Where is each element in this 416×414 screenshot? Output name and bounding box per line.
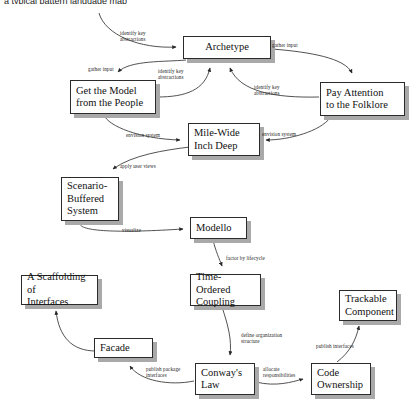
node-pay-attention-to-the-folklore[interactable]: Pay Attention to the Folklore: [320, 82, 405, 116]
node-label: Modello: [196, 222, 232, 235]
edge-gather-input-right: [272, 49, 352, 73]
edge-allocate-responsibilities: [256, 379, 303, 384]
node-label: Time-Ordered Coupling: [196, 271, 255, 309]
edge-label-envision-system-right: envision system: [262, 131, 296, 137]
node-label: Code Ownership: [317, 367, 363, 392]
node-scenario-buffered-system[interactable]: Scenario- Buffered System: [61, 177, 119, 221]
edge-label-gather-input-right: gather input: [272, 42, 298, 48]
edge-label-allocate-responsibilities: allocate responsibilities: [263, 366, 295, 378]
edge-label-factor-by-lifecycle: factor by lifecycle: [226, 255, 265, 261]
node-facade[interactable]: Facade: [94, 338, 153, 358]
edge-label-identify-key-abstractions-top: identify key abstractions: [120, 30, 146, 42]
node-get-the-model-from-the-people[interactable]: Get the Model from the People: [70, 80, 156, 114]
node-label: Archetype: [189, 41, 265, 54]
node-trackable-component[interactable]: Trackable Component: [339, 290, 397, 321]
edge-label-define-organization-structure: define organization structure: [241, 332, 282, 344]
edge-factor-by-lifecycle: [213, 240, 222, 266]
edge-label-gather-input-left: gather input: [88, 66, 114, 72]
edge-label-apply-user-views: apply user views: [120, 163, 156, 169]
node-label: Get the Model from the People: [76, 85, 143, 110]
node-label: Conway's Law: [201, 367, 242, 392]
node-a-scaffolding-of-interfaces[interactable]: A Scaffolding of Interfaces: [21, 275, 98, 305]
edge-facade-to-scaffolding: [56, 311, 96, 351]
node-label: Pay Attention to the Folklore: [326, 87, 388, 112]
edge-label-publish-package-interfaces: publish package interfaces: [146, 366, 180, 378]
node-time-ordered-coupling[interactable]: Time-Ordered Coupling: [190, 274, 261, 306]
node-code-ownership[interactable]: Code Ownership: [311, 363, 371, 395]
edge-label-envision-system-left: envision system: [126, 132, 160, 138]
node-label: Trackable Component: [345, 293, 394, 318]
node-label: A Scaffolding of Interfaces: [27, 271, 92, 309]
node-label: Mile-Wide Inch Deep: [194, 127, 240, 152]
node-label: Facade: [100, 342, 130, 355]
node-label: Scenario- Buffered System: [67, 180, 107, 218]
edge-label-identify-key-abstractions-right: identify key abstractions: [254, 84, 280, 96]
edge-label-publish-interfaces: publish interfaces: [316, 343, 354, 349]
diagram-canvas: a typical pattern language map: [0, 0, 416, 414]
node-archetype[interactable]: Archetype: [183, 36, 271, 59]
edge-label-identify-key-abstractions-left: identify key abstractions: [158, 68, 184, 80]
edge-label-visualize: visualize: [122, 227, 141, 233]
node-modello[interactable]: Modello: [190, 217, 247, 239]
node-conways-law[interactable]: Conway's Law: [195, 363, 255, 395]
edge-define-organization-structure: [222, 307, 231, 355]
node-mile-wide-inch-deep[interactable]: Mile-Wide Inch Deep: [188, 123, 260, 156]
